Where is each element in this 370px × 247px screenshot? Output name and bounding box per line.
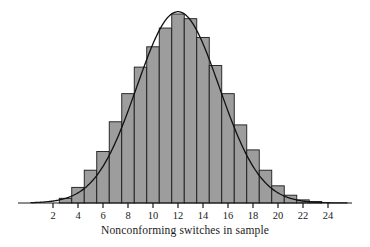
- histogram-bar: [159, 28, 172, 203]
- x-axis-tick-label: 10: [148, 210, 159, 221]
- histogram-bar: [197, 37, 210, 203]
- histogram-plot: 24681012141618202224: [0, 0, 370, 247]
- x-axis-tick-label: 4: [75, 210, 81, 221]
- x-axis-tick-labels: 24681012141618202224: [50, 210, 334, 221]
- x-axis-tick-label: 14: [198, 210, 209, 221]
- histogram-bar: [184, 19, 197, 203]
- x-axis-tick-label: 16: [223, 210, 234, 221]
- histogram-bar: [209, 66, 222, 203]
- x-axis-tick-label: 18: [248, 210, 259, 221]
- histogram-bar: [172, 14, 185, 203]
- x-axis-tick-label: 12: [173, 210, 184, 221]
- x-axis-tick-label: 20: [273, 210, 284, 221]
- x-axis-tick-label: 22: [298, 210, 309, 221]
- x-axis-tick-label: 8: [125, 210, 130, 221]
- histogram-bar: [147, 47, 160, 203]
- histogram-bars: [59, 14, 322, 203]
- x-axis-label: Nonconforming switches in sample: [0, 224, 370, 236]
- histogram-bar: [109, 122, 122, 203]
- histogram-bar: [234, 125, 247, 203]
- x-axis-ticks: [53, 203, 328, 208]
- x-axis-tick-label: 24: [323, 210, 334, 221]
- x-axis-tick-label: 6: [100, 210, 105, 221]
- x-axis-tick-label: 2: [50, 210, 55, 221]
- histogram-figure: 24681012141618202224 Nonconforming switc…: [0, 0, 370, 247]
- histogram-bar: [272, 186, 285, 203]
